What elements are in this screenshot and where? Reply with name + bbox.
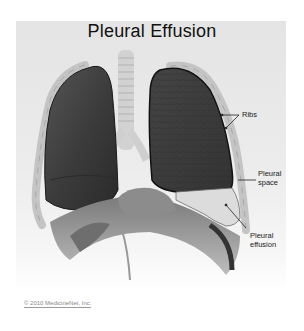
ribs-label: Ribs [242,111,257,120]
lungs-illustration [0,0,304,331]
pleural-effusion-label: Pleural effusion [250,232,276,249]
copyright-notice: © 2010 MedicineNet, Inc. [24,300,91,308]
pleural-space-label: Pleural space [258,170,281,187]
pleural-space-label-line2: space [258,179,281,188]
pleural-effusion-label-line2: effusion [250,241,276,250]
